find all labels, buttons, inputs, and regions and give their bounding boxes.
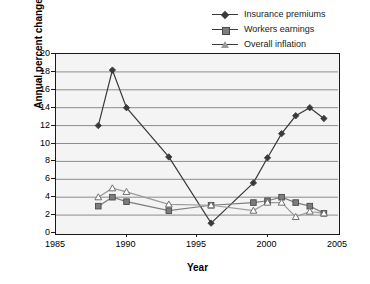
- y-tick-label: 4: [28, 192, 50, 201]
- data-point: [96, 203, 102, 209]
- legend-marker-square-icon: [212, 24, 238, 35]
- legend-marker-triangle-icon: [212, 39, 238, 50]
- chart-container: Insurance premiums Workers earnings Over…: [0, 0, 370, 284]
- legend-label: Overall inflation: [244, 39, 306, 50]
- legend-label: Insurance premiums: [244, 9, 326, 20]
- data-point: [293, 200, 299, 206]
- plot-area: [55, 53, 340, 235]
- y-tick-label: 18: [28, 67, 50, 76]
- data-point: [95, 122, 101, 128]
- chart-plot-svg: [56, 54, 338, 233]
- x-axis-title: Year: [55, 262, 340, 273]
- data-point: [110, 194, 116, 200]
- legend-item-overall-inflation[interactable]: Overall inflation: [212, 38, 326, 51]
- legend-label: Workers earnings: [244, 24, 314, 35]
- y-tick-label: 6: [28, 174, 50, 183]
- x-tick-label: 1995: [176, 240, 216, 249]
- y-tick-label: 16: [28, 85, 50, 94]
- data-point: [166, 208, 172, 214]
- x-tick-label: 2005: [317, 240, 357, 249]
- x-tick-label: 1985: [35, 240, 75, 249]
- data-point: [109, 185, 116, 191]
- legend-item-insurance-premiums[interactable]: Insurance premiums: [212, 8, 326, 21]
- y-tick-label: 12: [28, 121, 50, 130]
- y-tick-label: 8: [28, 156, 50, 165]
- data-point: [251, 200, 257, 206]
- x-tick-label: 1990: [106, 240, 146, 249]
- chart-legend: Insurance premiums Workers earnings Over…: [212, 8, 326, 53]
- legend-marker-diamond-icon: [212, 9, 238, 20]
- y-tick-label: 10: [28, 139, 50, 148]
- legend-item-workers-earnings[interactable]: Workers earnings: [212, 23, 326, 36]
- data-point: [124, 199, 130, 205]
- y-tick-label: 0: [28, 228, 50, 237]
- x-tick-label: 2000: [247, 240, 287, 249]
- y-tick-label: 14: [28, 103, 50, 112]
- data-point: [264, 155, 270, 161]
- y-tick-label: 20: [28, 49, 50, 58]
- y-tick-label: 2: [28, 210, 50, 219]
